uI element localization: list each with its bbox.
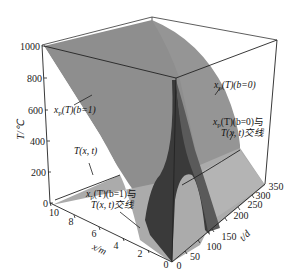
annotation-intersection-b1-l2: T(x, t)交线 [91, 199, 135, 211]
x-tick-10: 10 [49, 207, 59, 218]
annotation-Txt: T(x, t) [74, 146, 97, 157]
T-tick-1000: 1000 [20, 41, 40, 52]
surface-3d-chart: 1000 800 600 400 200 0 T/℃ 10 8 6 4 2 0 … [0, 0, 294, 276]
t-tick-350: 350 [269, 181, 284, 192]
t-tick-0: 0 [177, 260, 182, 271]
x-tick-6: 6 [92, 228, 97, 239]
annotation-intersection-b0-l2: T(x, t)交线 [221, 127, 265, 139]
t-axis-label: t/d [237, 227, 253, 243]
T-tick-0: 0 [43, 198, 48, 209]
T-axis-label: T/℃ [15, 118, 26, 139]
x-tick-0: 0 [164, 259, 169, 270]
T-tick-800: 800 [27, 73, 42, 84]
x-axis-label: x/m [90, 240, 109, 257]
T-tick-400: 400 [30, 136, 45, 147]
T-tick-200: 200 [31, 167, 46, 178]
x-tick-8: 8 [69, 216, 74, 227]
T-tick-600: 600 [28, 105, 43, 116]
x-tick-4: 4 [114, 240, 119, 251]
t-tick-150: 150 [222, 231, 237, 242]
x-tick-2: 2 [138, 248, 143, 259]
t-tick-50: 50 [190, 251, 200, 262]
t-tick-200: 200 [234, 210, 249, 221]
t-tick-100: 100 [207, 241, 222, 252]
